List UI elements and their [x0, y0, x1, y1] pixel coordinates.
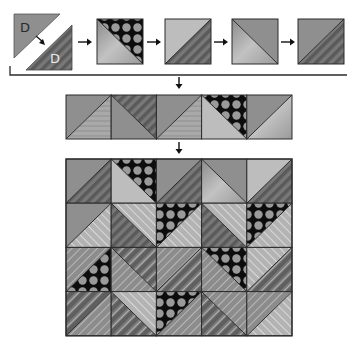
arrow-head [87, 39, 92, 46]
quilt-square-r1-c3 [156, 159, 201, 203]
strip-square-1 [66, 95, 111, 139]
quilt-square-r3-c4 [202, 247, 247, 291]
quilt-square-r1-c1 [66, 159, 111, 203]
triangle-bottom-label: D [50, 51, 60, 66]
quilt-square-r4-c2 [111, 292, 156, 336]
arrow-right-icon [147, 39, 161, 46]
quilt-square-r3-c1 [66, 247, 111, 291]
quilt-square-r4-c4 [202, 292, 247, 336]
quilt-square-r3-c5 [247, 247, 292, 291]
arrow-head [176, 84, 183, 89]
quilt-square-r4-c5 [247, 292, 292, 336]
strip-square-4 [202, 95, 247, 139]
quilt-square-r4-c1 [66, 292, 111, 336]
sequence-square-2 [165, 19, 211, 64]
arrow-down-icon [176, 142, 183, 154]
arrow-down-icon [176, 77, 183, 89]
strip-square-3 [156, 95, 201, 139]
quilt-square-r2-c2 [111, 203, 156, 247]
quilt-square-r2-c1 [66, 203, 111, 247]
arrow-head [223, 39, 228, 46]
step1-triangles: DD [14, 14, 72, 70]
arrow-head [176, 149, 183, 154]
arrow-right-icon [214, 39, 228, 46]
quilt-square-r1-c2 [111, 159, 156, 203]
quilt-square-r3-c3 [156, 247, 201, 291]
quilt-square-r3-c2 [111, 247, 156, 291]
quilt-assembly-diagram: DD [0, 0, 347, 345]
arrow-right-icon [78, 39, 92, 46]
strip-square-2 [111, 95, 156, 139]
triangle-top-label: D [20, 20, 30, 35]
quilt-square-r2-c3 [156, 203, 201, 247]
strip-square-5 [247, 95, 292, 139]
sequence-square-4 [298, 19, 344, 64]
quilt-square-r4-c3 [156, 292, 201, 336]
quilt-square-r2-c4 [202, 203, 247, 247]
quilt-square-r1-c4 [202, 159, 247, 203]
sequence-square-1 [97, 19, 143, 64]
sequence-square-3 [232, 19, 278, 64]
arrow-head [290, 39, 295, 46]
arrow-head [156, 39, 161, 46]
quilt-square-r1-c5 [247, 159, 292, 203]
arrow-right-icon [281, 39, 295, 46]
quilt-square-r2-c5 [247, 203, 292, 247]
